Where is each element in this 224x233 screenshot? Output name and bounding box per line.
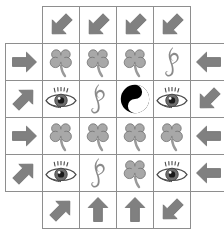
grid-cell[interactable] bbox=[116, 191, 154, 229]
clef-icon bbox=[87, 157, 109, 189]
arrow-southwest-icon bbox=[157, 195, 187, 225]
grid-cell[interactable] bbox=[153, 43, 191, 81]
grid-cell[interactable] bbox=[79, 6, 117, 44]
grid-cell[interactable] bbox=[153, 117, 191, 155]
grid-cell[interactable] bbox=[79, 43, 117, 81]
clover-icon bbox=[120, 46, 150, 78]
grid-cell[interactable] bbox=[42, 117, 80, 155]
grid-cell[interactable] bbox=[79, 154, 117, 192]
arrow-southwest-icon bbox=[194, 84, 224, 114]
yinyang-icon bbox=[120, 84, 150, 114]
grid-cell[interactable] bbox=[42, 80, 80, 118]
arrow-west-icon bbox=[194, 121, 224, 151]
arrow-west-icon bbox=[194, 158, 224, 188]
clover-icon bbox=[46, 46, 76, 78]
grid-cell[interactable] bbox=[42, 154, 80, 192]
grid-cell[interactable] bbox=[116, 43, 154, 81]
grid-cell[interactable] bbox=[42, 191, 80, 229]
eye-icon bbox=[44, 161, 78, 185]
grid-cell[interactable] bbox=[79, 80, 117, 118]
grid-cell[interactable] bbox=[42, 43, 80, 81]
grid-cell[interactable] bbox=[116, 6, 154, 44]
grid-cell[interactable] bbox=[5, 154, 43, 192]
grid-cell[interactable] bbox=[153, 80, 191, 118]
grid-cell[interactable] bbox=[5, 80, 43, 118]
eye-icon bbox=[155, 161, 189, 185]
grid-cell[interactable] bbox=[190, 43, 224, 81]
grid-cell[interactable] bbox=[79, 117, 117, 155]
clover-icon bbox=[83, 46, 113, 78]
grid-cell-empty bbox=[5, 6, 43, 44]
arrow-east-icon bbox=[9, 47, 39, 77]
grid-cell[interactable] bbox=[153, 154, 191, 192]
grid-cell[interactable] bbox=[116, 117, 154, 155]
arrow-north-icon bbox=[120, 195, 150, 225]
grid-cell-empty bbox=[190, 191, 224, 229]
clef-icon bbox=[161, 46, 183, 78]
puzzle-board bbox=[0, 0, 224, 233]
grid-cell[interactable] bbox=[153, 191, 191, 229]
grid-cell[interactable] bbox=[190, 117, 224, 155]
clef-icon bbox=[87, 83, 109, 115]
clover-icon bbox=[120, 120, 150, 152]
arrow-northeast-icon bbox=[9, 158, 39, 188]
arrow-northeast-icon bbox=[46, 195, 76, 225]
eye-icon bbox=[155, 87, 189, 111]
grid-cell[interactable] bbox=[116, 154, 154, 192]
arrow-east-icon bbox=[9, 121, 39, 151]
grid-cell[interactable] bbox=[42, 6, 80, 44]
clover-icon bbox=[120, 157, 150, 189]
grid-cell-empty bbox=[5, 191, 43, 229]
grid-cell[interactable] bbox=[5, 43, 43, 81]
grid-cell[interactable] bbox=[190, 154, 224, 192]
grid-cell-empty bbox=[190, 6, 224, 44]
arrow-north-icon bbox=[83, 195, 113, 225]
clover-icon bbox=[83, 120, 113, 152]
grid-cell[interactable] bbox=[79, 191, 117, 229]
grid-cell[interactable] bbox=[153, 6, 191, 44]
arrow-southwest-icon bbox=[83, 10, 113, 40]
arrow-southwest-icon bbox=[157, 10, 187, 40]
arrow-northeast-icon bbox=[9, 84, 39, 114]
clover-icon bbox=[46, 120, 76, 152]
arrow-southwest-icon bbox=[120, 10, 150, 40]
arrow-southwest-icon bbox=[46, 10, 76, 40]
clover-icon bbox=[157, 120, 187, 152]
eye-icon bbox=[44, 87, 78, 111]
grid-cell[interactable] bbox=[5, 117, 43, 155]
grid-cell[interactable] bbox=[190, 80, 224, 118]
arrow-west-icon bbox=[194, 47, 224, 77]
grid-cell[interactable] bbox=[116, 80, 154, 118]
